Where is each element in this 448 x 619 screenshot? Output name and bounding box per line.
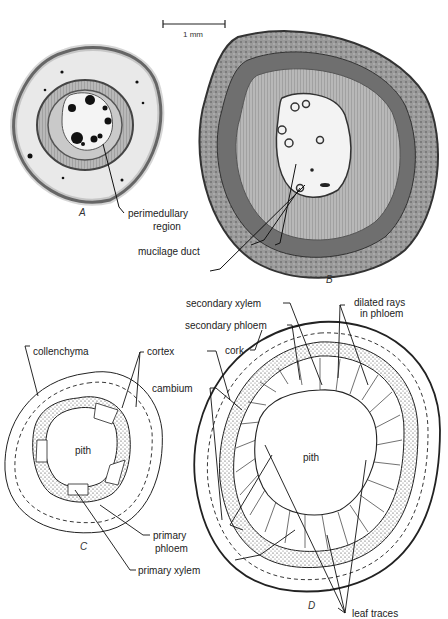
label-primary-xylem: primary xylem (138, 565, 200, 576)
label-perimedullary-region-line1: perimedullary (128, 208, 188, 219)
label-dilated-rays-line1: dilated rays (354, 297, 405, 308)
label-pith-d: pith (303, 452, 319, 463)
scale-bar (163, 20, 225, 28)
panel-label-a: A (79, 207, 86, 218)
label-mucilage-duct: mucilage duct (138, 246, 200, 257)
label-pith-c: pith (75, 445, 91, 456)
label-secondary-phloem: secondary phloem (185, 320, 267, 331)
label-collenchyma: collenchyma (33, 346, 89, 357)
label-secondary-xylem: secondary xylem (186, 298, 261, 309)
label-leaf-traces: leaf traces (352, 608, 398, 619)
panel-label-c: C (80, 541, 87, 552)
label-cambium: cambium (152, 383, 193, 394)
micrograph-b (199, 31, 438, 278)
label-perimedullary-region-line2: region (153, 221, 181, 232)
label-dilated-rays-line2: in phloem (360, 308, 403, 319)
label-cork: cork (225, 345, 244, 356)
panel-label-b: B (326, 274, 333, 285)
label-primary-phloem-line2: phloem (155, 543, 188, 554)
drawing-c (5, 346, 162, 570)
panel-label-d: D (308, 600, 315, 611)
micrograph-a (14, 48, 161, 213)
scale-bar-label: 1 mm (183, 30, 203, 39)
label-cortex: cortex (147, 346, 174, 357)
label-primary-phloem-line1: primary (153, 530, 186, 541)
